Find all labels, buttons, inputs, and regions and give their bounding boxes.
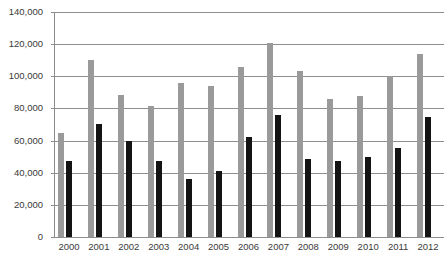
x-axis-tick-label: 2001: [84, 241, 114, 252]
bar-2006-series-2: [246, 137, 252, 237]
bar-group: [145, 12, 175, 237]
bar-2002-series-1: [118, 95, 124, 237]
gridline: [55, 237, 444, 238]
bar-group: [55, 12, 85, 237]
bar-group: [264, 12, 294, 237]
x-axis-tick-label: 2003: [144, 241, 174, 252]
x-axis-tick-label: 2009: [323, 241, 353, 252]
bar-2003-series-1: [148, 106, 154, 237]
bar-2001-series-2: [96, 124, 102, 237]
bar-group: [354, 12, 384, 237]
x-axis-tick-label: 2008: [293, 241, 323, 252]
chart-title: [0, 0, 444, 1]
bar-group: [115, 12, 145, 237]
bar-2007-series-2: [275, 115, 281, 237]
bar-2009-series-2: [335, 161, 341, 237]
bar-2008-series-2: [305, 159, 311, 237]
bar-2000-series-1: [58, 133, 64, 237]
bar-group: [175, 12, 205, 237]
y-axis-tick-label: 20,000: [14, 200, 43, 210]
bar-2011-series-1: [387, 76, 393, 237]
x-axis-tick-label: 2000: [54, 241, 84, 252]
y-axis-tickmark: [51, 237, 55, 238]
y-axis-tick-label: 0: [38, 232, 43, 242]
bar-2010-series-1: [357, 96, 363, 237]
x-axis-tick-label: 2005: [204, 241, 234, 252]
x-axis-tick-label: 2006: [234, 241, 264, 252]
x-axis-tick-label: 2012: [413, 241, 443, 252]
bar-2000-series-2: [66, 161, 72, 237]
bar-2009-series-1: [327, 99, 333, 237]
bar-group: [235, 12, 265, 237]
bar-2010-series-2: [365, 157, 371, 237]
bar-2008-series-1: [297, 71, 303, 237]
y-axis-tick-label: 80,000: [14, 103, 43, 113]
plot-area: [54, 12, 443, 237]
bar-2001-series-1: [88, 60, 94, 237]
y-axis: 140,000120,000100,00080,00060,00040,0002…: [0, 0, 50, 270]
y-axis-tick-label: 140,000: [9, 7, 43, 17]
bar-2006-series-1: [238, 67, 244, 237]
bar-group: [384, 12, 414, 237]
bar-2003-series-2: [156, 161, 162, 237]
bar-group: [85, 12, 115, 237]
bar-2005-series-1: [208, 86, 214, 237]
bar-2005-series-2: [216, 171, 222, 237]
x-axis-tick-label: 2002: [114, 241, 144, 252]
bar-2011-series-2: [395, 148, 401, 237]
y-axis-tick-label: 120,000: [9, 39, 43, 49]
bar-group: [414, 12, 444, 237]
bar-chart: 140,000120,000100,00080,00060,00040,0002…: [0, 0, 444, 270]
y-axis-tick-label: 40,000: [14, 168, 43, 178]
bar-group: [324, 12, 354, 237]
bar-2012-series-2: [425, 117, 431, 237]
x-axis-tick-label: 2004: [174, 241, 204, 252]
bar-2004-series-1: [178, 83, 184, 237]
y-axis-tick-label: 60,000: [14, 136, 43, 146]
bar-2007-series-1: [267, 43, 273, 237]
bars-layer: [55, 12, 444, 237]
bar-group: [294, 12, 324, 237]
y-axis-tick-label: 100,000: [9, 71, 43, 81]
x-axis-tick-label: 2007: [263, 241, 293, 252]
x-axis-tick-label: 2011: [383, 241, 413, 252]
bar-2004-series-2: [186, 179, 192, 237]
bar-group: [205, 12, 235, 237]
x-axis-tick-label: 2010: [353, 241, 383, 252]
bar-2012-series-1: [417, 54, 423, 237]
bar-2002-series-2: [126, 141, 132, 237]
x-axis: 2000200120022003200420052006200720082009…: [54, 241, 443, 261]
